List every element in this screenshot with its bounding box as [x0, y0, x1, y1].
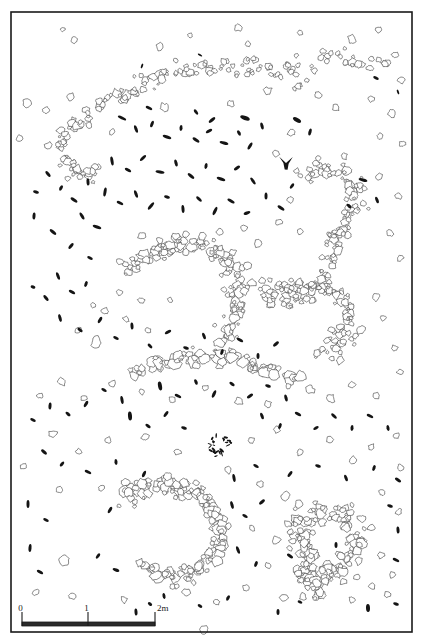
stone-chip	[250, 367, 253, 371]
loose-stone	[138, 233, 146, 239]
stone-block	[329, 337, 332, 340]
dark-mark	[27, 500, 30, 508]
stone-chip	[174, 495, 178, 500]
stone-block	[204, 60, 207, 64]
stone-block	[165, 241, 176, 249]
stone-block	[336, 244, 339, 246]
stone-block	[306, 167, 312, 172]
stone-chip	[70, 167, 73, 171]
stone-block	[214, 246, 218, 251]
stone-block	[150, 252, 153, 256]
stone-block	[329, 51, 334, 56]
stone-block	[369, 56, 375, 61]
stone-block	[153, 88, 156, 90]
stone-block	[58, 136, 60, 138]
stone-chip	[161, 244, 165, 248]
stone-block	[341, 232, 345, 237]
stone-block	[103, 98, 107, 101]
stone-block	[376, 57, 381, 62]
stone-block	[229, 330, 233, 334]
scale-tick-label: 0	[18, 603, 23, 613]
dark-mark	[257, 353, 260, 359]
stone-chip	[81, 172, 86, 175]
dark-mark	[277, 609, 280, 615]
site-plan-figure: 012m	[0, 0, 425, 644]
stone-chip	[162, 257, 166, 260]
stone-block	[140, 86, 147, 92]
stone-chip	[232, 300, 236, 304]
stone-block	[170, 490, 174, 493]
stone-block	[346, 318, 349, 321]
dark-mark	[335, 542, 338, 548]
stone-block	[332, 260, 336, 263]
stone-block	[343, 60, 348, 66]
stone-block	[178, 489, 184, 496]
dark-mark-body	[335, 542, 338, 548]
stone-block	[313, 597, 317, 601]
site-plan-canvas: 012m	[0, 0, 425, 644]
stone-block	[310, 172, 314, 176]
stone-chip	[317, 286, 322, 290]
dark-mark-body	[257, 353, 260, 359]
loose-stone	[243, 585, 249, 591]
loose-stone	[373, 392, 379, 399]
stone-chip	[205, 569, 209, 573]
stone-chip	[289, 278, 294, 282]
stone-block	[117, 504, 121, 507]
loose-stone	[250, 525, 255, 531]
dark-mark-body	[27, 500, 30, 508]
loose-stone	[340, 579, 347, 585]
stone-block	[118, 94, 122, 97]
stone-block	[333, 506, 338, 510]
stone-block	[220, 65, 224, 68]
dark-mark	[265, 193, 268, 200]
stone-block	[194, 71, 199, 75]
scale-tick-label: 1	[84, 603, 89, 613]
stone-block	[66, 155, 68, 157]
stone-block	[357, 542, 363, 547]
loose-stone	[81, 396, 87, 401]
stone-block	[139, 73, 143, 77]
stone-block	[346, 510, 354, 516]
loose-stone	[393, 433, 399, 439]
stone-block	[352, 197, 355, 200]
loose-stone	[169, 397, 175, 403]
stone-block	[136, 265, 140, 269]
dark-mark-body	[265, 193, 268, 200]
stone-block	[213, 254, 216, 257]
stone-chip	[142, 496, 145, 499]
stone-block	[241, 64, 244, 67]
dark-mark-body	[277, 609, 280, 615]
scale-tick-label: 2m	[157, 603, 169, 613]
stone-chip	[332, 235, 337, 239]
stone-chip	[286, 383, 291, 389]
stone-block	[332, 230, 337, 234]
stone-block	[355, 61, 362, 69]
stone-block	[289, 305, 292, 308]
stone-block	[165, 73, 168, 76]
loose-stone	[354, 574, 360, 579]
stone-chip	[191, 346, 194, 349]
loose-stone	[200, 626, 208, 635]
